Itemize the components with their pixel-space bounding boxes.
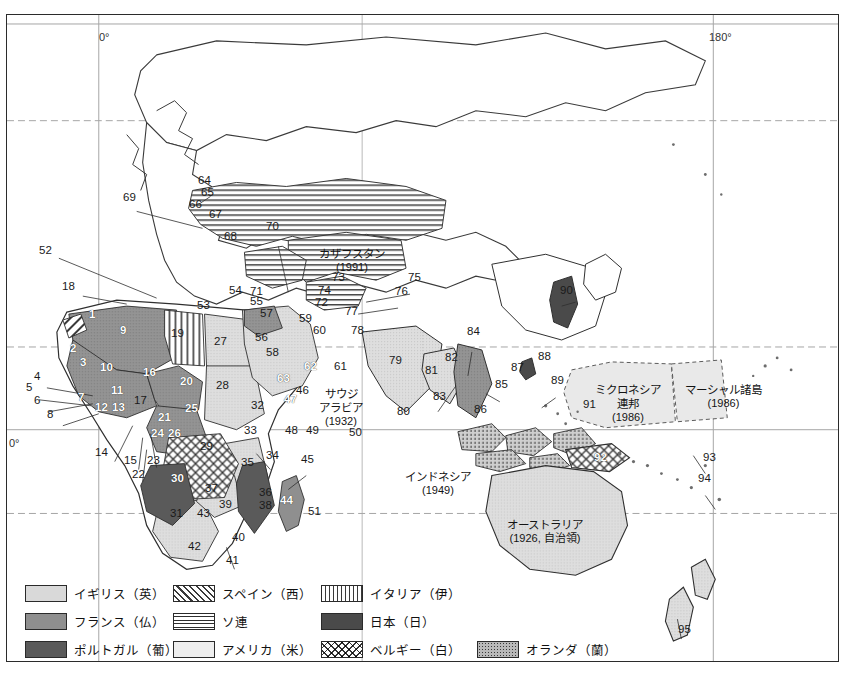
legend-item-belgium[interactable]: ベルギー（白） — [321, 639, 461, 660]
region-number-88: 88 — [538, 351, 551, 363]
legend-swatch-netherlands — [477, 641, 519, 658]
region-number-70: 70 — [266, 221, 279, 233]
region-number-76: 76 — [395, 286, 408, 298]
region-number-12: 12 — [95, 402, 108, 414]
legend-item-france[interactable]: フランス（仏） — [25, 611, 165, 632]
label-kazakhstan: カザフスタン (1991) — [319, 247, 385, 274]
legend-item-uk[interactable]: イギリス（英） — [25, 583, 165, 604]
graticule-label-meridian-180: 180° — [709, 31, 732, 43]
label-australia-year: (1926, 自治領) — [507, 532, 583, 545]
graticule-label-equator: 0° — [9, 437, 20, 449]
region-number-84: 84 — [467, 326, 480, 338]
region-number-26: 26 — [168, 428, 181, 440]
region-number-16: 16 — [143, 367, 156, 379]
legend-swatch-japan — [321, 613, 363, 630]
region-number-62: 62 — [304, 361, 317, 373]
legend-swatch-uk — [25, 585, 67, 602]
region-number-21: 21 — [158, 412, 171, 424]
region-number-29: 29 — [200, 441, 213, 453]
region-number-91: 91 — [583, 399, 596, 411]
legend-item-usa[interactable]: アメリカ（米） — [173, 639, 312, 660]
region-number-5: 5 — [26, 382, 32, 394]
region-number-45: 45 — [301, 454, 314, 466]
region-number-18: 18 — [62, 281, 75, 293]
label-marshall-islands-name: マーシャル諸島 — [685, 383, 762, 397]
region-number-46: 46 — [296, 385, 309, 397]
region-number-73: 73 — [332, 272, 345, 284]
map-legend: イギリス（英）スペイン（西）イタリア（伊）フランス（仏）ソ連日本（日）ポルトガル… — [25, 583, 665, 667]
region-number-15: 15 — [124, 455, 137, 467]
legend-item-netherlands[interactable]: オランダ（蘭） — [477, 639, 617, 660]
region-number-14: 14 — [95, 447, 108, 459]
region-number-7: 7 — [78, 392, 84, 404]
legend-item-ussr[interactable]: ソ連 — [173, 611, 248, 632]
map-frame: 0° 180° 0° カザフスタン (1991) サウジ アラビア (1932)… — [6, 14, 839, 662]
region-number-9: 9 — [120, 325, 126, 337]
map-canvas — [7, 15, 838, 661]
map-svg — [7, 15, 838, 661]
graticule-label-meridian-0: 0° — [99, 31, 110, 43]
region-number-81: 81 — [425, 365, 438, 377]
legend-label-belgium: ベルギー（白） — [370, 640, 461, 659]
region-number-35: 35 — [241, 457, 254, 469]
label-marshall-islands-year: (1986) — [685, 397, 762, 410]
region-number-22: 22 — [132, 469, 145, 481]
region-number-31: 31 — [170, 508, 183, 520]
legend-swatch-belgium — [321, 641, 363, 658]
region-number-92: 92 — [594, 452, 607, 464]
region-number-40: 40 — [232, 532, 245, 544]
region-number-60: 60 — [313, 325, 326, 337]
label-indonesia: インドネシア (1949) — [405, 470, 471, 497]
legend-label-japan: 日本（日） — [370, 612, 435, 631]
region-number-44: 44 — [280, 495, 293, 507]
legend-item-italy[interactable]: イタリア（伊） — [321, 583, 461, 604]
region-number-63: 63 — [277, 373, 290, 385]
region-number-33: 33 — [244, 425, 257, 437]
region-number-54: 54 — [229, 285, 242, 297]
label-micronesia-year: (1986) — [595, 411, 661, 424]
region-number-77: 77 — [345, 306, 358, 318]
region-number-19: 19 — [171, 328, 184, 340]
region-number-59: 59 — [299, 313, 312, 325]
region-number-24: 24 — [151, 428, 164, 440]
region-number-48: 48 — [285, 425, 298, 437]
region-number-53: 53 — [197, 300, 210, 312]
label-saudi-arabia: サウジ アラビア (1932) — [319, 387, 363, 428]
region-number-32: 32 — [251, 400, 264, 412]
region-number-86: 86 — [474, 404, 487, 416]
label-micronesia-line1: ミクロネシア — [595, 383, 661, 397]
region-number-34: 34 — [266, 450, 279, 462]
region-number-69: 69 — [123, 192, 136, 204]
region-number-11: 11 — [111, 385, 123, 397]
region-number-8: 8 — [47, 409, 53, 421]
legend-item-spain[interactable]: スペイン（西） — [173, 583, 312, 604]
region-number-49: 49 — [306, 425, 319, 437]
region-number-89: 89 — [551, 375, 564, 387]
region-number-1: 1 — [89, 309, 95, 321]
region-number-30: 30 — [171, 473, 184, 485]
region-number-23: 23 — [147, 455, 160, 467]
legend-item-portugal[interactable]: ポルトガル（葡） — [25, 639, 178, 660]
legend-swatch-spain — [173, 585, 215, 602]
label-indonesia-year: (1949) — [405, 484, 471, 497]
legend-label-spain: スペイン（西） — [222, 584, 312, 603]
region-number-78: 78 — [351, 325, 364, 337]
region-number-74: 74 — [318, 285, 331, 297]
legend-label-ussr: ソ連 — [222, 612, 248, 631]
label-australia: オーストラリア (1926, 自治領) — [507, 518, 583, 545]
region-number-2: 2 — [70, 343, 76, 355]
legend-swatch-france — [25, 613, 67, 630]
region-number-94: 94 — [698, 473, 711, 485]
legend-item-japan[interactable]: 日本（日） — [321, 611, 435, 632]
region-number-43: 43 — [197, 508, 210, 520]
region-number-67: 67 — [209, 209, 222, 221]
eurasia-landmass — [135, 33, 706, 304]
region-number-71: 71 — [250, 286, 263, 298]
region-number-28: 28 — [216, 380, 229, 392]
legend-label-netherlands: オランダ（蘭） — [526, 640, 617, 659]
region-number-95: 95 — [678, 624, 691, 636]
legend-label-portugal: ポルトガル（葡） — [74, 640, 178, 659]
region-number-42: 42 — [188, 541, 201, 553]
region-number-55: 55 — [250, 296, 263, 308]
label-kazakhstan-year: (1991) — [319, 261, 385, 274]
